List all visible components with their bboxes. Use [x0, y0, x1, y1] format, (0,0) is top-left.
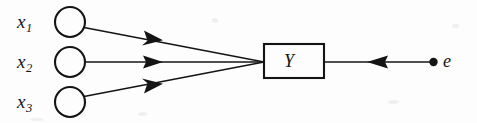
subscript-2: 2	[25, 61, 32, 75]
node-circle-x3	[55, 87, 85, 117]
diagram-canvas	[0, 0, 477, 123]
edge-line-x1-to-y	[84, 28, 264, 63]
node-circle-x2	[55, 47, 85, 77]
node-label-x3: x3	[17, 92, 32, 115]
path-diagram-figure: x1 x2 x3 Y e	[0, 0, 477, 123]
subscript-3: 3	[25, 101, 32, 115]
node-label-x2: x2	[17, 52, 32, 75]
arrowhead-x3-to-y	[142, 78, 163, 93]
edge-line-x3-to-y	[84, 62, 264, 97]
subscript-1: 1	[25, 21, 32, 35]
error-node-dot-e	[429, 58, 437, 66]
node-label-y: Y	[284, 52, 294, 70]
node-circle-x1	[55, 7, 85, 37]
node-label-e: e	[443, 52, 451, 70]
arrowhead-x1-to-y	[142, 31, 163, 46]
node-label-x1: x1	[17, 12, 32, 35]
arrowhead-x2-to-y	[143, 56, 163, 69]
arrowhead-e-to-y	[367, 56, 388, 69]
